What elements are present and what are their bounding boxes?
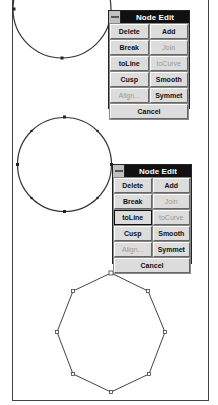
join-button[interactable]: Join [150, 40, 189, 55]
to-line-button[interactable]: toLine [110, 56, 149, 71]
align-button[interactable]: Align... [114, 242, 152, 257]
delete-button[interactable]: Delete [114, 178, 152, 193]
break-button[interactable]: Break [110, 40, 149, 55]
to-curve-button[interactable]: toCurve [153, 210, 191, 225]
align-button[interactable]: Align... [110, 88, 149, 103]
minus-icon [115, 170, 123, 172]
panel-title: Node Edit [125, 167, 191, 176]
node-edit-panel-2: Node Edit Delete Add Break Join toLine t… [112, 164, 192, 264]
smooth-button[interactable]: Smooth [153, 226, 191, 241]
node-edit-panel-1: Node Edit Delete Add Break Join toLine t… [108, 10, 190, 109]
cusp-button[interactable]: Cusp [110, 72, 149, 87]
break-button[interactable]: Break [114, 194, 152, 209]
cancel-button[interactable]: Cancel [110, 104, 188, 119]
add-button[interactable]: Add [150, 24, 189, 39]
cusp-button[interactable]: Cusp [114, 226, 152, 241]
symmet-button[interactable]: Symmet [153, 242, 191, 257]
minus-icon [111, 16, 119, 18]
join-button[interactable]: Join [153, 194, 191, 209]
cancel-button[interactable]: Cancel [114, 258, 190, 273]
panel-title: Node Edit [121, 13, 189, 22]
panel-titlebar[interactable]: Node Edit [113, 165, 191, 177]
circle-shape-1[interactable] [13, 0, 112, 60]
symmet-button[interactable]: Symmet [150, 88, 189, 103]
panel-titlebar[interactable]: Node Edit [109, 11, 189, 23]
octagon-shape[interactable] [56, 271, 167, 394]
system-menu-button[interactable] [109, 11, 121, 23]
circle-shape-2[interactable] [16, 116, 113, 214]
node-handle [61, 57, 64, 60]
delete-button[interactable]: Delete [110, 24, 149, 39]
node-handle [13, 8, 16, 11]
system-menu-button[interactable] [113, 165, 125, 177]
add-button[interactable]: Add [153, 178, 191, 193]
to-curve-button[interactable]: toCurve [150, 56, 189, 71]
smooth-button[interactable]: Smooth [150, 72, 189, 87]
to-line-button[interactable]: toLine [114, 210, 152, 225]
